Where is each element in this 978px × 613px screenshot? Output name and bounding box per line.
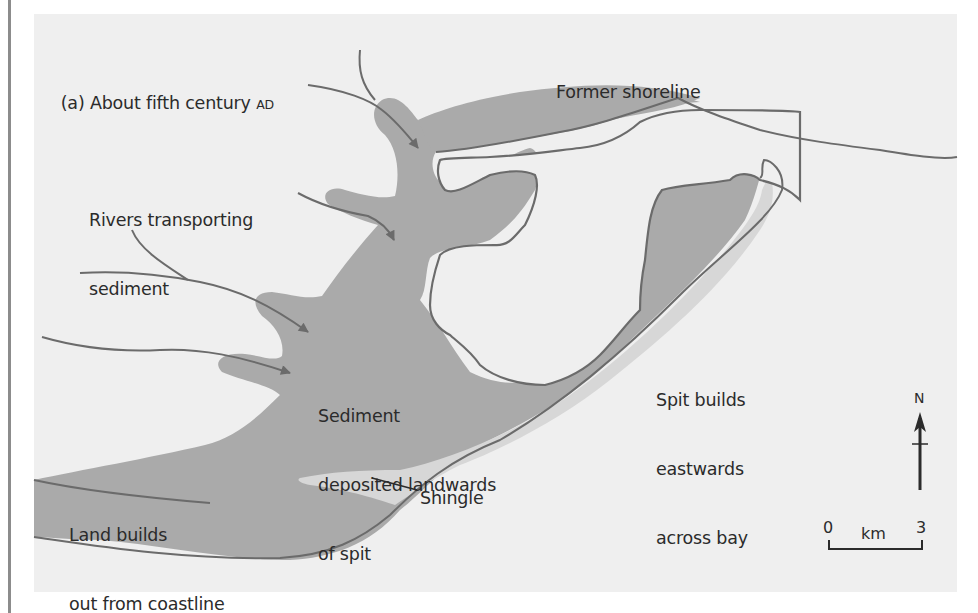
scale-end-label: 3 xyxy=(916,518,926,537)
label-land-line1: Land builds xyxy=(69,524,225,547)
label-sediment: Sediment deposited landwards of spit xyxy=(318,359,496,589)
label-rivers: Rivers transporting sediment xyxy=(89,163,253,324)
label-sediment-line3: of spit xyxy=(318,543,496,566)
north-arrow-icon xyxy=(912,412,928,490)
label-sediment-line1: Sediment xyxy=(318,405,496,428)
label-spit-line2: eastwards xyxy=(656,458,748,481)
panel-title-text: (a) About fifth century xyxy=(61,93,256,113)
label-spit: Spit builds eastwards across bay xyxy=(656,343,748,573)
label-rivers-line1: Rivers transporting xyxy=(89,209,253,232)
label-land-line2: out from coastline xyxy=(69,593,225,613)
label-rivers-line2: sediment xyxy=(89,278,253,301)
north-label: N xyxy=(914,390,924,406)
river-1-tributary xyxy=(360,50,375,100)
label-spit-line3: across bay xyxy=(656,527,748,550)
label-former-shoreline: Former shoreline xyxy=(556,81,700,104)
label-spit-line1: Spit builds xyxy=(656,389,748,412)
label-land-builds: Land builds out from coastline xyxy=(69,478,225,613)
panel-title: (a) About fifth century AD xyxy=(50,69,274,116)
scale-unit-label: km xyxy=(861,524,886,543)
scale-start-label: 0 xyxy=(823,518,833,537)
label-shingle: Shingle xyxy=(420,487,484,510)
panel-title-era: AD xyxy=(256,97,274,112)
